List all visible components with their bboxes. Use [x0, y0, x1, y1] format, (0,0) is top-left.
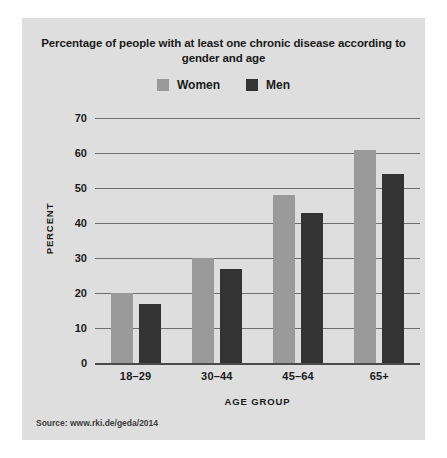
bar-women-0 — [111, 293, 133, 363]
plot-wrapper: 010203040506070 PERCENT 18–2930–4445–646… — [22, 18, 425, 440]
y-axis-tick-label: 20 — [47, 287, 87, 299]
y-axis-tick-label: 70 — [47, 112, 87, 124]
bar-men-1 — [220, 269, 242, 364]
x-axis-tick-label: 65+ — [339, 370, 420, 382]
x-axis-tick-label: 30–44 — [176, 370, 257, 382]
y-axis-tick-label: 60 — [47, 147, 87, 159]
bar-men-0 — [139, 304, 161, 364]
bar-group — [95, 118, 176, 363]
bar-women-1 — [192, 258, 214, 363]
y-axis-title: PERCENT — [44, 184, 55, 274]
bar-group — [339, 118, 420, 363]
bar-group — [258, 118, 339, 363]
bar-group — [176, 118, 257, 363]
x-axis-title: AGE GROUP — [95, 396, 420, 407]
y-axis-tick-label: 10 — [47, 322, 87, 334]
chart-card: Percentage of people with at least one c… — [22, 18, 425, 440]
bar-men-2 — [301, 213, 323, 364]
x-axis-tick-label: 18–29 — [95, 370, 176, 382]
bar-women-2 — [273, 195, 295, 363]
x-axis-baseline — [95, 363, 420, 365]
bar-men-3 — [382, 174, 404, 363]
bar-groups — [95, 118, 420, 363]
y-axis-tick-label: 0 — [47, 357, 87, 369]
source-note: Source: www.rki.de/geda/2014 — [36, 418, 158, 428]
x-axis-tick-label: 45–64 — [258, 370, 339, 382]
bar-women-3 — [354, 150, 376, 364]
x-axis-tick-labels: 18–2930–4445–6465+ — [95, 370, 420, 382]
